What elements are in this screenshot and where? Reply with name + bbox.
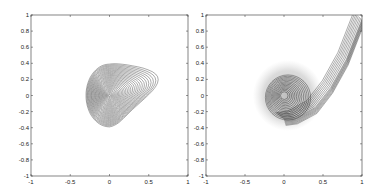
y-tick-label: 1	[26, 12, 30, 18]
y-tick-label: -1	[24, 173, 30, 179]
y-tick-label: 0.2	[21, 76, 30, 82]
y-tick-label: -0.6	[194, 141, 205, 147]
y-tick-label: -0.8	[194, 157, 205, 163]
x-tick-label: 0	[282, 179, 286, 185]
x-tick-label: -0.5	[65, 179, 76, 185]
y-tick-label: 0	[26, 93, 30, 99]
figure: -1-0.500.51-1-0.8-0.6-0.4-0.200.20.40.60…	[0, 0, 381, 194]
y-tick-label: 0.8	[21, 28, 30, 34]
right-contours	[253, 12, 364, 131]
y-tick-label: -0.4	[19, 125, 30, 131]
right-plot: -1-0.500.51-1-0.8-0.6-0.4-0.200.20.40.60…	[194, 12, 365, 185]
x-tick-label: 0	[108, 179, 112, 185]
x-tick-label: -1	[28, 179, 34, 185]
y-tick-label: 0.4	[21, 60, 30, 66]
y-tick-label: 1	[201, 12, 205, 18]
left-contours	[86, 64, 158, 127]
x-tick-label: 0.5	[145, 179, 154, 185]
y-tick-label: 0.6	[21, 44, 30, 50]
y-tick-label: 0.8	[196, 28, 205, 34]
y-tick-label: 0	[201, 93, 205, 99]
y-tick-label: -0.2	[19, 109, 30, 115]
y-tick-label: -0.2	[194, 109, 205, 115]
left-plot: -1-0.500.51-1-0.8-0.6-0.4-0.200.20.40.60…	[19, 12, 191, 185]
y-tick-label: 0.2	[196, 76, 205, 82]
y-tick-label: -0.6	[19, 141, 30, 147]
x-tick-label: 0.5	[319, 179, 328, 185]
x-tick-label: 1	[186, 179, 190, 185]
y-tick-label: -0.8	[19, 157, 30, 163]
left-axes-box	[31, 15, 188, 176]
x-tick-label: -0.5	[240, 179, 251, 185]
y-tick-label: 0.4	[196, 60, 205, 66]
x-tick-label: -1	[203, 179, 209, 185]
x-tick-label: 1	[360, 179, 364, 185]
y-tick-label: 0.6	[196, 44, 205, 50]
y-tick-label: -0.4	[194, 125, 205, 131]
y-tick-label: -1	[199, 173, 205, 179]
